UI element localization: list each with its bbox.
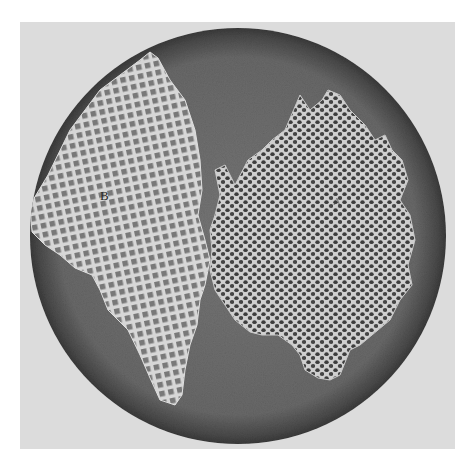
label-a: A	[333, 195, 341, 207]
microscope-figure: B A	[0, 0, 473, 466]
label-b: B	[100, 188, 109, 203]
